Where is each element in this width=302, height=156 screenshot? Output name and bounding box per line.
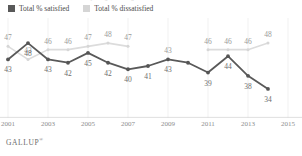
data-point (7, 45, 10, 48)
x-axis-tick: 2005 (81, 120, 95, 128)
data-point (47, 48, 50, 51)
plot-area: 4743464647484743464646484348434245424041… (0, 18, 302, 118)
data-point (246, 74, 250, 78)
data-value-label: 47 (124, 33, 132, 42)
gallup-wordmark: GALLUP (6, 138, 39, 147)
data-point (126, 67, 130, 71)
data-value-label: 45 (84, 58, 92, 67)
data-value-label: 44 (224, 62, 232, 71)
data-point (66, 61, 70, 65)
data-point (207, 48, 210, 51)
data-point (127, 45, 130, 48)
legend-item-dissatisfied[interactable]: Total % dissatisfied (83, 4, 153, 13)
data-point (266, 87, 270, 91)
data-value-label: 48 (264, 30, 272, 39)
data-point (247, 48, 250, 51)
light-square-icon (83, 5, 90, 12)
data-value-label: 42 (104, 68, 112, 77)
data-point (166, 58, 170, 62)
x-axis: 20012003200520072009201120132015 (0, 118, 302, 134)
data-value-label: 47 (84, 33, 92, 42)
gallup-line-chart: Americans' Satisfaction With the Way Thi… (0, 0, 302, 156)
data-value-label: 43 (4, 65, 12, 74)
data-value-label: 46 (224, 36, 232, 45)
data-value-label: 38 (244, 81, 252, 90)
legend-item-satisfied[interactable]: Total % satisfied (8, 4, 69, 13)
data-point (86, 51, 90, 55)
data-value-label: 46 (64, 36, 72, 45)
data-point (227, 48, 230, 51)
data-value-label: 46 (44, 36, 52, 45)
data-value-label: 39 (204, 78, 212, 87)
data-point (206, 71, 210, 75)
gallup-attribution: GALLUP® (6, 137, 44, 147)
data-value-label: 47 (4, 33, 12, 42)
data-point (186, 61, 190, 65)
data-value-label: 43 (164, 46, 172, 55)
legend-label-dissatisfied: Total % dissatisfied (94, 4, 153, 13)
x-axis-tick: 2015 (281, 120, 295, 128)
data-value-label: 43 (44, 65, 52, 74)
data-value-label: 42 (64, 68, 72, 77)
data-value-label: 41 (144, 72, 152, 81)
registered-mark: ® (39, 137, 43, 142)
data-value-label: 43 (164, 65, 172, 74)
data-value-label: 40 (124, 75, 132, 84)
data-value-label: 34 (264, 94, 272, 103)
data-point (27, 58, 30, 61)
chart-title-clipped: Americans' Satisfaction With the Way Thi… (10, 0, 159, 1)
data-value-label: 46 (244, 36, 252, 45)
chart-legend: Total % satisfied Total % dissatisfied (8, 4, 153, 13)
data-point (87, 45, 90, 48)
x-axis-tick: 2007 (121, 120, 135, 128)
x-axis-tick: 2013 (241, 120, 255, 128)
data-point (226, 54, 230, 58)
x-axis-tick: 2009 (161, 120, 175, 128)
data-value-label: 48 (24, 49, 32, 58)
data-point (267, 42, 270, 45)
data-point (6, 58, 10, 62)
data-point (26, 41, 30, 45)
data-value-label: 46 (204, 36, 212, 45)
data-point (146, 64, 150, 68)
x-axis-tick: 2001 (1, 120, 15, 128)
data-point (106, 61, 110, 65)
dark-square-icon (8, 5, 15, 12)
data-point (46, 58, 50, 62)
data-point (107, 42, 110, 45)
legend-label-satisfied: Total % satisfied (19, 4, 69, 13)
x-axis-tick: 2011 (201, 120, 215, 128)
data-value-label: 48 (104, 30, 112, 39)
x-axis-tick: 2003 (41, 120, 55, 128)
data-point (67, 48, 70, 51)
